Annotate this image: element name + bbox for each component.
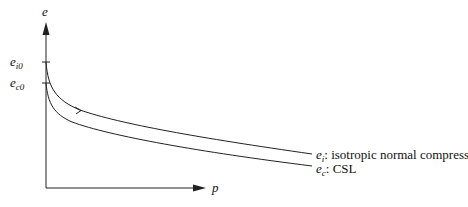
curve-label-csl: ec: CSL xyxy=(316,162,357,175)
tick-label-ec0: ec0 xyxy=(10,76,24,89)
y-axis-arrowhead-icon xyxy=(43,22,50,35)
direction-arrow-icon xyxy=(75,107,81,114)
curve-isotropic-ncl xyxy=(46,62,312,154)
curve-label-isotropic-ncl: ei: isotropic normal compression curve, … xyxy=(316,148,468,161)
curve-csl xyxy=(46,83,312,166)
tick-label-ei0: ei0 xyxy=(10,55,23,68)
x-axis-label: p xyxy=(212,181,219,194)
y-axis-label: e xyxy=(42,5,48,18)
diagram-canvas xyxy=(0,0,468,207)
x-axis-arrowhead-icon xyxy=(193,185,206,192)
